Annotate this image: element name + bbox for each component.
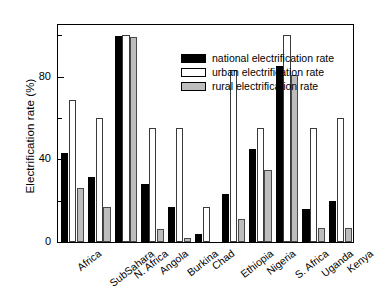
bar-rural-angola — [157, 229, 164, 242]
legend-item-urban: urban electrification rate — [181, 66, 334, 79]
y-tick-label-40: 40 — [11, 152, 51, 164]
bar-national-chad — [195, 234, 202, 242]
bar-rural-subsahara — [103, 207, 110, 242]
bar-rural-s-africa — [291, 75, 298, 242]
bar-rural-n-africa — [130, 37, 137, 242]
legend-item-rural: rural electrification rate — [181, 80, 334, 93]
bar-national-subsahara — [88, 177, 95, 242]
bar-urban-ethiopia — [230, 70, 237, 242]
plot-area: national electrification rate urban elec… — [57, 24, 354, 243]
bar-urban-subsahara — [96, 118, 103, 242]
bar-national-n-africa — [115, 36, 122, 242]
bar-rural-kenya — [345, 228, 352, 242]
bar-national-ethiopia — [222, 194, 229, 242]
bar-national-burkina — [168, 207, 175, 242]
y-tick-label-0: 0 — [11, 235, 51, 247]
bar-rural-africa — [77, 188, 84, 242]
bar-urban-chad — [203, 207, 210, 242]
bar-rural-nigeria — [264, 170, 271, 242]
bar-urban-africa — [69, 100, 76, 242]
chart-legend: national electrification rate urban elec… — [179, 51, 336, 95]
legend-label-national: national electrification rate — [212, 53, 334, 64]
bar-rural-ethiopia — [238, 219, 245, 242]
y-minor-tick-60 — [58, 118, 62, 119]
bar-urban-n-africa — [122, 35, 129, 242]
y-tick-0 — [58, 242, 64, 243]
bar-national-kenya — [329, 201, 336, 242]
bar-urban-kenya — [337, 118, 344, 242]
bar-national-angola — [141, 184, 148, 242]
legend-swatch-national-icon — [181, 54, 206, 64]
legend-label-urban: urban electrification rate — [212, 67, 324, 78]
bar-urban-uganda — [310, 128, 317, 242]
legend-swatch-rural-icon — [181, 82, 206, 92]
y-tick-80 — [58, 77, 64, 78]
bar-rural-burkina — [184, 238, 191, 242]
y-axis-title: Electrification rate (%) — [24, 26, 36, 246]
bar-urban-angola — [149, 128, 156, 242]
bar-rural-uganda — [318, 228, 325, 242]
y-tick-label-80: 80 — [11, 70, 51, 82]
bar-urban-nigeria — [257, 128, 264, 242]
legend-swatch-urban-icon — [181, 68, 206, 78]
bar-urban-burkina — [176, 128, 183, 242]
x-tick-label-africa: Africa — [75, 247, 104, 273]
bar-national-nigeria — [249, 149, 256, 242]
legend-label-rural: rural electrification rate — [212, 81, 318, 92]
bar-national-uganda — [302, 209, 309, 242]
y-minor-tick-100 — [58, 35, 62, 36]
legend-item-national: national electrification rate — [181, 52, 334, 65]
bar-national-africa — [61, 153, 68, 242]
